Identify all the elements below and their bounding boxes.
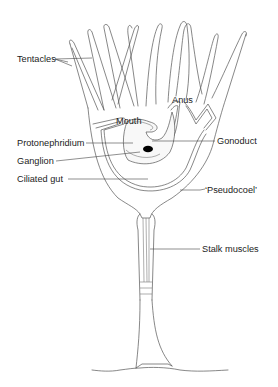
leader-tentacles-2 bbox=[55, 59, 72, 66]
label-tentacles: Tentacles bbox=[17, 54, 56, 64]
label-gonoduct: Gonoduct bbox=[217, 136, 257, 146]
rectum bbox=[168, 101, 216, 140]
tentacles bbox=[69, 22, 246, 111]
substrate-line bbox=[92, 367, 228, 371]
label-stalk-muscles: Stalk muscles bbox=[202, 244, 259, 254]
stalk bbox=[136, 214, 172, 368]
label-protonephridium: Protonephridium bbox=[17, 138, 85, 148]
leader-tentacles-3 bbox=[55, 58, 92, 59]
entoproct-diagram: Tentacles Anus Mouth Protonephridium Gon… bbox=[0, 0, 278, 387]
label-ciliated-gut: Ciliated gut bbox=[17, 174, 63, 184]
label-mouth: Mouth bbox=[116, 116, 142, 126]
label-pseudocoel: ‘Pseudocoel’ bbox=[205, 185, 257, 195]
label-ganglion: Ganglion bbox=[17, 156, 54, 166]
label-anus: Anus bbox=[172, 95, 193, 105]
ganglion-mark bbox=[143, 146, 153, 152]
